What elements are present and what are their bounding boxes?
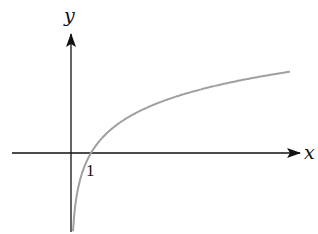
tick-label-one: 1 <box>86 161 95 180</box>
log-curve <box>73 72 290 232</box>
y-axis-label: y <box>63 4 75 26</box>
x-axis-label: x <box>304 141 315 163</box>
log-graph: y x 1 <box>0 0 318 234</box>
